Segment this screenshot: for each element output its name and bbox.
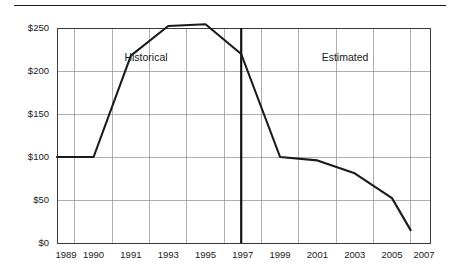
chart-figure: $250 $200 $150 $100 $50 $0 (0, 0, 455, 278)
x-tick-label: 1993 (158, 249, 179, 260)
x-tick-label: 2007 (413, 249, 434, 260)
x-tick-label: 2003 (344, 249, 365, 260)
x-tick-label: 1997 (232, 249, 253, 260)
x-tick-label: 2005 (381, 249, 402, 260)
y-tick-label: $0 (38, 237, 49, 248)
y-tick-label: $50 (33, 194, 49, 205)
horizontal-gridlines (57, 71, 430, 200)
x-tick-label: 1999 (270, 249, 291, 260)
x-tick-label: 1995 (195, 249, 216, 260)
y-axis-tick-labels: $250 $200 $150 $100 $50 $0 (28, 22, 49, 248)
x-axis-tick-labels: 1989 1990 1991 1993 1995 1997 1999 2001 … (55, 249, 434, 260)
x-tick-label: 1991 (120, 249, 141, 260)
annotation-estimated: Estimated (322, 51, 369, 63)
y-tick-label: $150 (28, 108, 49, 119)
x-tick-label: 1990 (83, 249, 104, 260)
y-tick-label: $250 (28, 22, 49, 33)
line-chart: $250 $200 $150 $100 $50 $0 (0, 0, 455, 278)
y-tick-label: $200 (28, 65, 49, 76)
x-tick-label: 1989 (55, 249, 76, 260)
x-tick-label: 2001 (307, 249, 328, 260)
y-tick-label: $100 (28, 151, 49, 162)
